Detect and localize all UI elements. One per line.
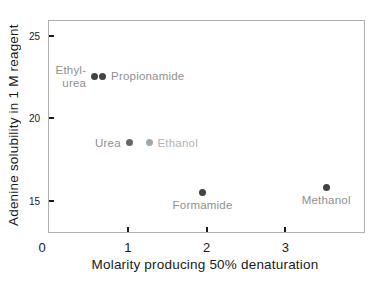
x-tick-label: 0 xyxy=(38,240,45,255)
data-point xyxy=(91,73,98,80)
y-tick-mark xyxy=(49,200,54,202)
data-point-label: Ethanol xyxy=(158,137,198,149)
data-point xyxy=(146,139,153,146)
x-tick-mark xyxy=(284,227,286,232)
x-tick-label: 3 xyxy=(282,240,289,255)
data-point-label: Methanol xyxy=(302,194,351,206)
x-tick-mark xyxy=(206,227,208,232)
data-point-label: Urea xyxy=(95,137,121,149)
y-tick-mark xyxy=(49,117,54,119)
x-tick-mark xyxy=(127,227,129,232)
data-point xyxy=(199,189,206,196)
plot-area: 1520250123Ethyl- ureaPropionamideUreaEth… xyxy=(48,20,365,233)
data-point-label: Ethyl- urea xyxy=(56,64,87,89)
data-point xyxy=(126,139,133,146)
y-axis-title: Adenine solubility in 1 M reagent xyxy=(3,18,23,232)
x-tick-label: 1 xyxy=(124,240,131,255)
x-axis-title: Molarity producing 50% denaturation xyxy=(92,257,319,272)
y-tick-label: 15 xyxy=(29,195,40,206)
y-tick-mark xyxy=(49,35,54,37)
data-point-label: Propionamide xyxy=(111,70,184,82)
data-point-label: Formamide xyxy=(173,199,233,211)
data-point xyxy=(323,184,330,191)
y-tick-label: 25 xyxy=(29,30,40,41)
y-tick-label: 20 xyxy=(29,113,40,124)
scatter-chart-figure: Adenine solubility in 1 M reagent 152025… xyxy=(0,0,378,286)
data-point xyxy=(99,73,106,80)
x-tick-label: 2 xyxy=(203,240,210,255)
